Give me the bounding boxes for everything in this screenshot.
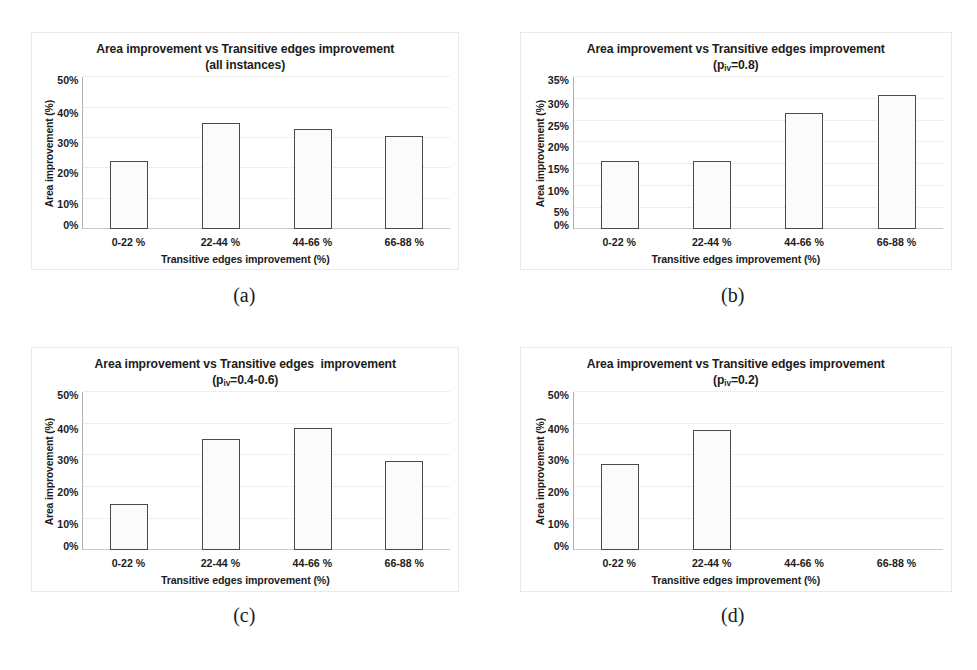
bar-slot <box>359 77 451 229</box>
bar-slot <box>574 77 666 229</box>
bar[interactable] <box>110 504 148 550</box>
x-tick-row-c: 0-22 %22-44 %44-66 %66-88 % <box>32 550 458 569</box>
bar-slot <box>175 77 267 229</box>
bar-slot <box>175 392 267 550</box>
bars-layer-a <box>83 77 450 229</box>
bar[interactable] <box>601 161 639 230</box>
bar-slot <box>267 392 359 550</box>
bar[interactable] <box>785 113 823 229</box>
chart-subtitle-b-subscript: iv <box>724 64 731 73</box>
chart-subtitle-c: (piv=0.4-0.6) <box>32 373 458 389</box>
x-tick-label: 66-88 % <box>358 550 450 569</box>
x-tick-label: 44-66 % <box>758 550 850 569</box>
x-tick-row-d: 0-22 %22-44 %44-66 %66-88 % <box>521 550 951 569</box>
x-axis-title-c: Transitive edges improvement (%) <box>32 569 458 586</box>
x-tick-spacer-c <box>32 550 82 569</box>
x-ticks-c: 0-22 %22-44 %44-66 %66-88 % <box>82 550 450 569</box>
x-tick-row-b: 0-22 %22-44 %44-66 %66-88 % <box>521 229 951 248</box>
chart-subtitle-d: (piv=0.2) <box>521 373 951 389</box>
bar[interactable] <box>878 95 916 230</box>
chart-panel-d: Area improvement vs Transitive edges imp… <box>520 347 952 592</box>
bar[interactable] <box>385 461 423 550</box>
bar[interactable] <box>385 136 423 229</box>
x-tick-label: 0-22 % <box>82 229 174 248</box>
chart-subtitle-d-suffix: =0.2) <box>731 373 759 387</box>
plot-area-a <box>82 77 450 229</box>
x-tick-label: 22-44 % <box>174 550 266 569</box>
chart-panel-a: Area improvement vs Transitive edges imp… <box>31 32 459 270</box>
plot-body-c: Area improvement (%) 50%40%30%20%10%0% <box>32 392 458 550</box>
bar[interactable] <box>110 161 148 229</box>
x-ticks-d: 0-22 %22-44 %44-66 %66-88 % <box>573 550 943 569</box>
x-ticks-b: 0-22 %22-44 %44-66 %66-88 % <box>573 229 943 248</box>
y-tick-column-a: 50%40%30%20%10%0% <box>57 77 82 229</box>
x-tick-label: 0-22 % <box>573 550 665 569</box>
plot-body-a: Area improvement (%) 50%40%30%20%10%0% <box>32 77 458 229</box>
x-tick-label: 44-66 % <box>266 550 358 569</box>
bar-slot <box>758 77 850 229</box>
bar[interactable] <box>294 428 332 550</box>
subfigure-c: Area improvement vs Transitive edges imp… <box>0 335 489 670</box>
plot-body-b: Area improvement (%) 35%30%25%20%15%10%5… <box>521 77 951 229</box>
x-tick-spacer-a <box>32 229 82 248</box>
subfigure-caption-c: (c) <box>233 604 255 627</box>
bar[interactable] <box>693 161 731 230</box>
bar-slot <box>758 392 850 550</box>
y-tick-column-c: 50%40%30%20%10%0% <box>57 392 82 550</box>
x-tick-label: 66-88 % <box>358 229 450 248</box>
x-tick-label: 22-44 % <box>665 550 757 569</box>
bar[interactable] <box>202 123 240 230</box>
subfigure-b: Area improvement vs Transitive edges imp… <box>489 0 977 335</box>
x-axis-title-d: Transitive edges improvement (%) <box>521 569 951 586</box>
chart-title-b: Area improvement vs Transitive edges imp… <box>521 33 951 58</box>
chart-subtitle-d-subscript: iv <box>724 379 731 388</box>
bar[interactable] <box>693 430 731 550</box>
subfigure-caption-b: (b) <box>721 284 744 307</box>
subfigure-caption-a: (a) <box>233 284 255 307</box>
bar-slot <box>267 77 359 229</box>
bar-slot <box>666 77 758 229</box>
bar-slot <box>83 77 175 229</box>
bars-layer-c <box>83 392 450 550</box>
plot-area-d <box>573 392 943 550</box>
bar[interactable] <box>202 439 240 550</box>
x-tick-label: 44-66 % <box>266 229 358 248</box>
x-axis-title-b: Transitive edges improvement (%) <box>521 248 951 265</box>
x-tick-label: 0-22 % <box>573 229 665 248</box>
bar-slot <box>851 392 943 550</box>
bar[interactable] <box>294 129 332 229</box>
chart-subtitle-b-suffix: =0.8) <box>731 58 759 72</box>
x-tick-spacer-b <box>521 229 573 248</box>
chart-subtitle-c-suffix: =0.4-0.6) <box>230 373 278 387</box>
bar-slot <box>83 392 175 550</box>
subfigure-a: Area improvement vs Transitive edges imp… <box>0 0 489 335</box>
plot-area-c <box>82 392 450 550</box>
bar[interactable] <box>601 464 639 550</box>
x-tick-label: 22-44 % <box>665 229 757 248</box>
subfigure-caption-d: (d) <box>721 604 744 627</box>
x-ticks-a: 0-22 %22-44 %44-66 %66-88 % <box>82 229 450 248</box>
bars-layer-d <box>574 392 943 550</box>
bars-layer-b <box>574 77 943 229</box>
chart-title-a: Area improvement vs Transitive edges imp… <box>32 33 458 58</box>
x-tick-label: 44-66 % <box>758 229 850 248</box>
plot-area-b <box>573 77 943 229</box>
bar-slot <box>666 392 758 550</box>
y-axis-title-a: Area improvement (%) <box>44 100 55 207</box>
subfigure-d: Area improvement vs Transitive edges imp… <box>489 335 977 670</box>
chart-subtitle-b-prefix: (p <box>713 58 724 72</box>
chart-subtitle-c-subscript: iv <box>223 379 230 388</box>
x-tick-label: 66-88 % <box>850 550 942 569</box>
plot-body-d: Area improvement (%) 50%40%30%20%10%0% <box>521 392 951 550</box>
bar-slot <box>574 392 666 550</box>
y-tick-column-d: 50%40%30%20%10%0% <box>548 392 573 550</box>
x-tick-label: 0-22 % <box>82 550 174 569</box>
y-tick-column-b: 35%30%25%20%15%10%5%0% <box>548 77 573 229</box>
chart-title-c: Area improvement vs Transitive edges imp… <box>32 348 458 373</box>
x-tick-label: 22-44 % <box>174 229 266 248</box>
x-axis-title-a: Transitive edges improvement (%) <box>32 248 458 265</box>
bar-slot <box>359 392 451 550</box>
y-axis-title-c: Area improvement (%) <box>44 418 55 525</box>
x-tick-spacer-d <box>521 550 573 569</box>
chart-subtitle-a-prefix: (all instances) <box>205 58 285 72</box>
